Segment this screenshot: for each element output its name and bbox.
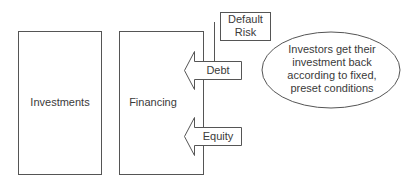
debt-label: Debt	[198, 64, 238, 77]
financing-label: Financing	[120, 96, 186, 109]
default-risk-label-line1: Default	[220, 13, 271, 26]
ellipse-text-line2: investment back	[262, 56, 402, 69]
equity-label: Equity	[196, 130, 240, 143]
ellipse-text-line1: Investors get their	[262, 43, 402, 56]
ellipse-text-line3: according to fixed,	[262, 69, 402, 82]
investments-label: Investments	[18, 96, 102, 109]
ellipse-text-line4: preset conditions	[262, 82, 402, 95]
default-risk-label-line2: Risk	[220, 26, 271, 39]
